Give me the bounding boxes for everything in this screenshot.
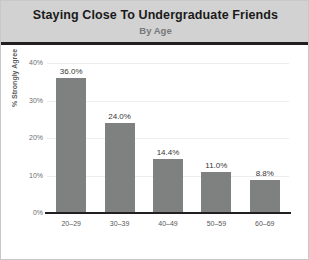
chart-subtitle: By Age [1, 22, 309, 36]
bar-group: 24.0% [95, 63, 143, 213]
chart-figure: Staying Close To Undergraduate Friends B… [0, 0, 309, 260]
chart-header-band: Staying Close To Undergraduate Friends B… [1, 1, 309, 42]
bar-value-label: 24.0% [95, 112, 143, 121]
bar-group: 14.4% [144, 63, 192, 213]
x-axis-tick-label: 20–29 [47, 219, 95, 231]
y-axis-tick-label: 40% [17, 59, 43, 67]
x-axis-tick-labels: 20–29 30–39 40–49 50–59 60–69 [47, 219, 289, 231]
bar-group: 8.8% [241, 63, 289, 213]
bar[interactable] [201, 172, 231, 213]
bar-value-label: 36.0% [47, 67, 95, 76]
x-axis-tick-label: 30–39 [95, 219, 143, 231]
x-axis-tick-label: 40–49 [144, 219, 192, 231]
bar-series: 36.0% 24.0% 14.4% 11.0% 8.8% [47, 63, 289, 213]
page-title: Staying Close To Undergraduate Friends [1, 1, 309, 22]
bar-value-label: 11.0% [192, 161, 240, 170]
plot-region: % Strongly Agree 40% 30% 20% 10% 0% 36.0… [1, 45, 309, 260]
y-axis-tick-label: 20% [17, 134, 43, 142]
bar[interactable] [105, 123, 135, 213]
bar[interactable] [153, 159, 183, 213]
x-axis-tick-label: 60–69 [241, 219, 289, 231]
y-axis-tick-label: 0% [17, 209, 43, 217]
bar[interactable] [56, 78, 86, 213]
x-axis-tick-label: 50–59 [192, 219, 240, 231]
plot-area: 36.0% 24.0% 14.4% 11.0% 8.8% [47, 63, 289, 213]
x-axis-line [45, 212, 291, 214]
bar-group: 36.0% [47, 63, 95, 213]
y-axis-tick-label: 10% [17, 172, 43, 180]
y-axis-tick-label: 30% [17, 97, 43, 105]
bar[interactable] [250, 180, 280, 213]
bar-group: 11.0% [192, 63, 240, 213]
y-axis-tick-labels: 40% 30% 20% 10% 0% [17, 63, 43, 213]
bar-value-label: 8.8% [241, 169, 289, 178]
bar-value-label: 14.4% [144, 148, 192, 157]
